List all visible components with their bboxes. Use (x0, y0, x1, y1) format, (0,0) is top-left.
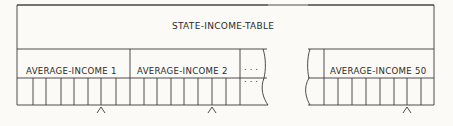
ellipsis-bottom: . . . (244, 76, 258, 84)
caret-icon (208, 107, 216, 113)
cells-average-income-1 (33, 78, 116, 105)
cells-average-income-2 (144, 78, 226, 105)
cells-average-income-50 (338, 78, 421, 105)
caret-icon (97, 107, 105, 113)
caret-icon (403, 107, 411, 113)
group-label-2: AVERAGE-INCOME 2 (137, 67, 228, 76)
ellipsis-top: . . . (244, 64, 258, 72)
group-label-1: AVERAGE-INCOME 1 (26, 67, 117, 76)
table-diagram (0, 0, 453, 126)
table-title: STATE-INCOME-TABLE (172, 22, 274, 31)
break-edge-left (262, 49, 268, 105)
right-block-outline (308, 5, 434, 105)
break-edge-right (306, 49, 310, 105)
left-block-outline (17, 5, 268, 105)
group-label-50: AVERAGE-INCOME 50 (330, 67, 427, 76)
